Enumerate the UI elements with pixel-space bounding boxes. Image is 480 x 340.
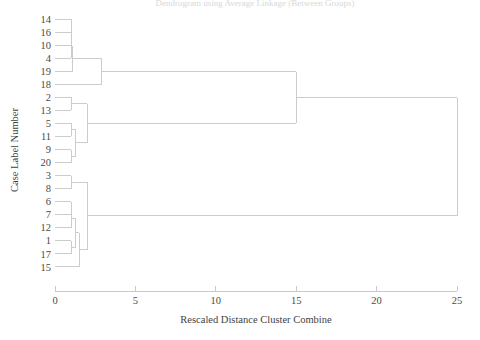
leaf-label: 8 [46, 183, 51, 194]
leaf-label: 1 [46, 235, 51, 246]
x-tick-label: 10 [211, 295, 222, 306]
leaf-label-group: 1416104191821351192038671211715 [41, 14, 52, 273]
x-tick-group: 0510152025 [52, 286, 462, 306]
dendrogram-plot: Dendrogram using Average Linkage (Betwee… [0, 0, 480, 340]
leaf-label: 17 [41, 249, 52, 260]
leaf-label: 4 [46, 53, 52, 64]
tree-line-group [55, 19, 457, 267]
leaf-label: 16 [41, 27, 52, 38]
dendrogram-chart: Dendrogram using Average Linkage (Betwee… [0, 0, 480, 340]
chart-title: Dendrogram using Average Linkage (Betwee… [155, 0, 354, 8]
leaf-label: 18 [41, 79, 52, 90]
y-axis-title: Case Label Number [9, 108, 20, 192]
leaf-label: 12 [41, 222, 52, 233]
x-tick-label: 15 [291, 295, 302, 306]
leaf-label: 6 [46, 196, 51, 207]
x-axis-title: Rescaled Distance Cluster Combine [180, 314, 332, 325]
leaf-label: 14 [41, 14, 52, 25]
leaf-label: 5 [46, 118, 51, 129]
leaf-label: 7 [46, 209, 51, 220]
x-tick-label: 20 [371, 295, 382, 306]
leaf-label: 15 [41, 262, 52, 273]
leaf-label: 10 [41, 40, 52, 51]
leaf-label: 3 [46, 170, 51, 181]
leaf-label: 11 [41, 131, 51, 142]
leaf-label: 20 [41, 157, 52, 168]
x-tick-label: 25 [452, 295, 463, 306]
x-tick-label: 0 [52, 295, 57, 306]
x-tick-label: 5 [133, 295, 138, 306]
leaf-label: 19 [41, 66, 52, 77]
leaf-label: 9 [46, 144, 51, 155]
leaf-label: 2 [46, 92, 51, 103]
leaf-label: 13 [41, 105, 52, 116]
